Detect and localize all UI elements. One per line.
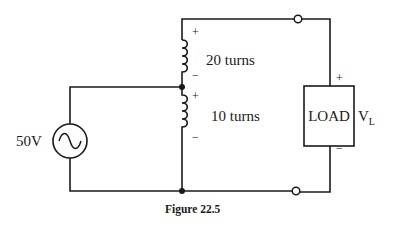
upper-winding-plus: + (192, 25, 199, 39)
upper-winding-coil (182, 40, 187, 87)
load-plus: + (336, 71, 343, 85)
upper-winding-label: 20 turns (206, 52, 255, 68)
source-bottom-wire (70, 158, 182, 191)
output-voltage-label: VL (358, 108, 375, 127)
output-voltage-subscript: L (369, 116, 375, 127)
lower-winding-plus: + (192, 89, 199, 103)
source-top-wire (70, 87, 182, 124)
lower-winding-label: 10 turns (211, 108, 260, 124)
top-wire-left (182, 19, 294, 40)
top-output-terminal (294, 15, 302, 23)
lower-winding-minus: − (192, 130, 199, 144)
circuit-diagram: LOAD + − + − + − 20 turns 10 turns 50V V… (0, 0, 398, 225)
upper-winding-minus: − (192, 68, 199, 82)
bottom-output-terminal (292, 187, 300, 195)
load-minus: − (336, 141, 343, 155)
source-voltage-label: 50V (16, 133, 42, 149)
lower-winding-coil (182, 87, 187, 191)
top-wire-right (302, 19, 330, 86)
output-voltage-symbol: V (358, 108, 369, 124)
load-label: LOAD (308, 108, 350, 124)
bottom-wire-right (300, 146, 330, 192)
figure-caption: Figure 22.5 (165, 203, 221, 216)
